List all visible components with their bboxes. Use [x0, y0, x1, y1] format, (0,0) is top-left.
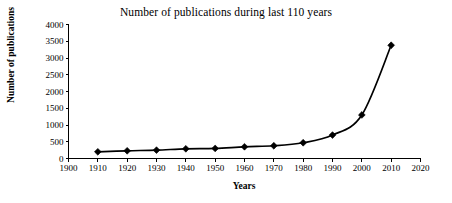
data-point-marker: 1980: 470 [300, 139, 307, 146]
data-point-marker: 1940: 290 [182, 145, 189, 152]
x-tick-label: 1930 [148, 163, 167, 173]
y-tick-label: 3500 [46, 36, 65, 46]
x-axis-tick-labels: 1900191019201930194019501960197019801990… [60, 163, 431, 173]
x-tick-label: 1950 [206, 163, 225, 173]
y-tick-label: 500 [50, 137, 64, 147]
data-point-marker: 1950: 300 [212, 145, 219, 152]
x-tick-label: 1990 [324, 163, 343, 173]
x-tick-label: 1940 [177, 163, 196, 173]
data-point-marker: 1990: 700 [329, 132, 336, 139]
data-point-marker: 1930: 250 [153, 147, 160, 154]
data-point-marker: 1960: 350 [241, 143, 248, 150]
y-axis-tick-labels: 05001000150020002500300035004000 [46, 20, 65, 164]
x-tick-label: 1910 [89, 163, 108, 173]
data-point-marker: 2010: 3380 [388, 42, 395, 49]
axis-tick-marks [66, 25, 421, 162]
x-tick-label: 1980 [294, 163, 313, 173]
x-tick-label: 1960 [236, 163, 255, 173]
data-series-line [98, 45, 391, 152]
x-tick-label: 1900 [60, 163, 79, 173]
x-tick-label: 2020 [412, 163, 431, 173]
y-tick-label: 2500 [46, 70, 65, 80]
y-tick-label: 1500 [46, 103, 65, 113]
x-tick-label: 2010 [382, 163, 401, 173]
data-point-marker: 1910: 200 [94, 148, 101, 155]
x-tick-label: 1970 [265, 163, 284, 173]
data-point-marker: 1970: 380 [270, 142, 277, 149]
y-tick-label: 4000 [46, 20, 65, 30]
x-tick-label: 1920 [118, 163, 137, 173]
x-tick-label: 2000 [353, 163, 372, 173]
plot-area: 05001000150020002500300035004000 1900191… [0, 0, 452, 203]
y-tick-label: 2000 [46, 87, 65, 97]
y-tick-label: 1000 [46, 120, 65, 130]
chart-figure: Number of publications during last 110 y… [0, 0, 452, 203]
data-point-marker: 1920: 230 [124, 147, 131, 154]
y-tick-label: 3000 [46, 53, 65, 63]
data-point-markers: 1910: 2001920: 2301930: 2501940: 2901950… [94, 42, 394, 155]
